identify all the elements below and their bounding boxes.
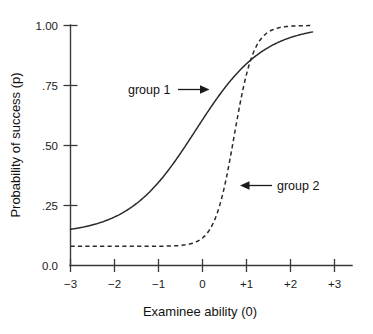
x-axis-title: Examinee ability (0) — [143, 304, 257, 319]
x-tick-label-5: +2 — [284, 278, 297, 290]
y-tick-label-1: .25 — [42, 200, 58, 212]
x-tick-label-6: +3 — [328, 278, 341, 290]
y-tick-label-0: 0.0 — [42, 260, 58, 272]
chart-figure: 1.00 .75 .50 .25 0.0 −3 −2 −1 0 +1 +2 +3 — [0, 0, 373, 334]
data-curves — [71, 26, 313, 247]
x-tick-label-2: −1 — [152, 278, 165, 290]
curve-group-1 — [71, 32, 313, 229]
x-tick-labels: −3 −2 −1 0 +1 +2 +3 — [64, 278, 341, 290]
chart-canvas: 1.00 .75 .50 .25 0.0 −3 −2 −1 0 +1 +2 +3 — [0, 0, 373, 334]
annotation-label-group-1: group 1 — [128, 83, 170, 97]
y-tick-labels: 1.00 .75 .50 .25 0.0 — [36, 20, 58, 272]
annotation-arrowhead-right-icon — [200, 85, 210, 94]
x-tick-label-0: −3 — [64, 278, 77, 290]
annotation-group-2: group 2 — [240, 179, 319, 193]
y-axis-title: Probability of success (p) — [8, 72, 23, 217]
axes-group — [70, 25, 352, 266]
annotation-label-group-2: group 2 — [277, 179, 319, 193]
y-tick-label-4: 1.00 — [36, 20, 58, 32]
annotation-arrowhead-left-icon — [240, 181, 250, 190]
y-tick-label-2: .50 — [42, 140, 58, 152]
x-tick-label-3: 0 — [199, 278, 205, 290]
y-tick-label-3: .75 — [42, 80, 58, 92]
annotation-group-1: group 1 — [128, 83, 210, 97]
x-tick-label-1: −2 — [108, 278, 121, 290]
x-tick-label-4: +1 — [240, 278, 253, 290]
